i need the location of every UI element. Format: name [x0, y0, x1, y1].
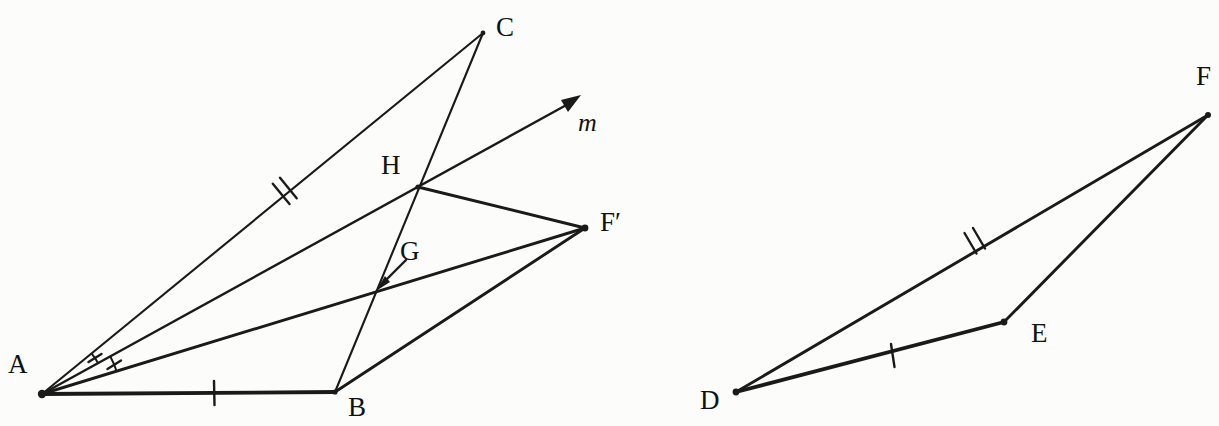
vertex-dot-e: [1001, 319, 1008, 326]
segment-a-b: [42, 392, 335, 394]
vertex-dot-f: [1205, 112, 1211, 118]
point-label-g: G: [400, 238, 420, 265]
ray-m-line: [42, 103, 570, 394]
point-label-a: A: [8, 351, 28, 378]
segment-b-fprime: [335, 228, 585, 392]
left-figure-group: [38, 31, 589, 405]
angle-arc-lower-tick: [108, 361, 122, 370]
vertex-dot-b: [332, 389, 337, 394]
point-label-fprime: F′: [600, 209, 621, 236]
segment-a-fprime: [42, 228, 585, 394]
point-label-f: F: [1196, 63, 1211, 90]
tick-de-1: [891, 344, 895, 367]
geometry-figure-canvas: A B C H G F′ m D E F: [0, 0, 1219, 426]
segment-h-fprime: [418, 187, 585, 228]
segment-d-f: [736, 115, 1208, 392]
tick-df-1: [965, 233, 977, 254]
tick-df-2: [973, 228, 985, 249]
tick-ab-1: [214, 381, 215, 405]
point-label-e: E: [1031, 320, 1048, 347]
vertex-dot-d: [733, 389, 740, 396]
vertex-dot-c: [481, 31, 486, 36]
segment-d-e: [736, 322, 1004, 392]
point-label-c: C: [496, 14, 514, 41]
point-label-b: B: [348, 394, 366, 421]
vertex-dot-h: [415, 184, 420, 189]
ray-label-m: m: [578, 110, 597, 136]
segment-e-f: [1004, 115, 1208, 322]
point-label-d: D: [700, 387, 720, 414]
vertex-dot-a: [38, 390, 46, 398]
vertex-dot-fprime: [582, 225, 589, 232]
right-figure-group: [733, 112, 1211, 395]
segment-c-b: [335, 33, 483, 392]
point-label-h: H: [381, 152, 401, 179]
